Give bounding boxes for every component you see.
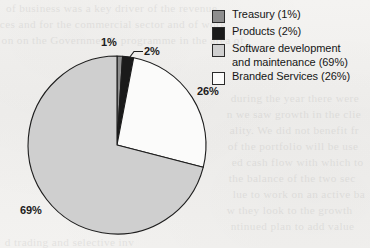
legend-item-software-development[interactable]: Software development and maintenance (69…: [212, 42, 368, 69]
products-swatch: [212, 27, 225, 40]
legend-label-line: Treasury (1%): [232, 8, 301, 22]
legend-item-branded-services[interactable]: Branded Services (26%): [212, 70, 368, 86]
pie-label-software-development: 69%: [20, 204, 42, 216]
legend-label-products: Products (2%): [232, 25, 301, 39]
leader-line-products: [130, 52, 144, 58]
software-development-swatch: [212, 44, 225, 57]
legend-label-line-2: and maintenance (69%): [232, 56, 348, 70]
pie-label-treasury: 1%: [101, 36, 117, 48]
legend-label-line: Products (2%): [232, 25, 301, 39]
legend-label-line: Software development: [232, 42, 348, 56]
legend-label-treasury: Treasury (1%): [232, 8, 301, 22]
treasury-swatch: [212, 10, 225, 23]
legend-label-branded-services: Branded Services (26%): [232, 70, 350, 84]
legend-label-software-development: Software development and maintenance (69…: [232, 42, 348, 69]
chart-legend: Treasury (1%) Products (2%) Software dev…: [212, 8, 368, 87]
pie-label-products: 2%: [144, 45, 160, 57]
branded-services-swatch: [212, 72, 225, 85]
legend-item-products[interactable]: Products (2%): [212, 25, 368, 41]
legend-item-treasury[interactable]: Treasury (1%): [212, 8, 368, 24]
legend-label-line: Branded Services (26%): [232, 70, 350, 84]
